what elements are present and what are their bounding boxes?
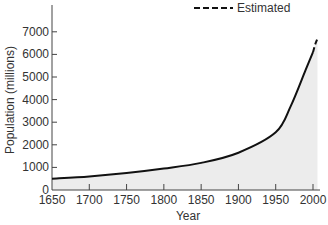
y-tick-label: 3000 xyxy=(22,115,49,129)
population-chart: 0100020003000400050006000700016501700175… xyxy=(0,0,328,225)
x-tick-label: 1850 xyxy=(188,193,215,207)
x-tick-label: 1950 xyxy=(262,193,289,207)
y-tick-label: 5000 xyxy=(22,70,49,84)
x-tick-label: 1800 xyxy=(151,193,178,207)
x-tick-label: 2000 xyxy=(300,193,327,207)
y-tick-label: 7000 xyxy=(22,25,49,39)
y-tick-label: 6000 xyxy=(22,47,49,61)
x-tick-label: 1750 xyxy=(113,193,140,207)
area-fill xyxy=(52,39,317,190)
x-tick-label: 1650 xyxy=(39,193,66,207)
x-tick-label: 1700 xyxy=(76,193,103,207)
y-tick-label: 4000 xyxy=(22,93,49,107)
legend: Estimated xyxy=(194,1,290,15)
x-axis-title: Year xyxy=(176,209,200,223)
legend-label: Estimated xyxy=(237,1,290,15)
y-tick-label: 2000 xyxy=(22,138,49,152)
x-tick-label: 1900 xyxy=(225,193,252,207)
y-tick-label: 1000 xyxy=(22,160,49,174)
y-axis-title: Population (millions) xyxy=(3,46,17,154)
